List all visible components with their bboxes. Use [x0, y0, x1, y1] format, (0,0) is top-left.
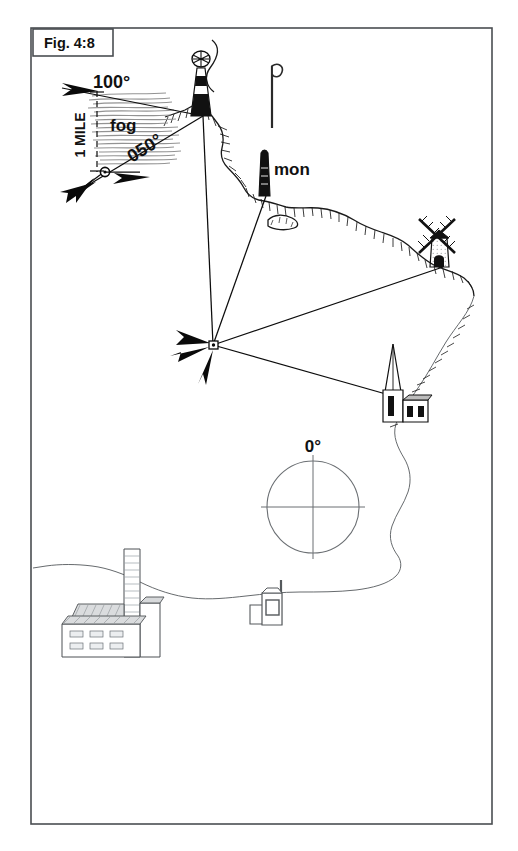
figure-label-text: Fig. 4:8 [44, 35, 95, 51]
windmill-icon [418, 216, 455, 267]
bearing-100-label: 100° [93, 72, 130, 92]
coastal-building-icon [250, 580, 282, 625]
flagpole-icon [272, 64, 282, 128]
figure-container: Fig. 4:8 [0, 0, 518, 851]
position-fix-marker [209, 341, 218, 349]
compass-north-label: 0° [305, 437, 321, 456]
position-fix-arrows [170, 330, 213, 385]
fog-label: fog [110, 116, 136, 135]
fog-bearing-construction: fog 100° 050° [60, 72, 203, 203]
church-icon [383, 344, 432, 422]
bearing-050-arrowhead-2 [113, 173, 150, 184]
coastline-east [33, 296, 474, 599]
coastline-north [164, 104, 474, 296]
monument-icon [259, 150, 270, 196]
compass-rose: 0° [261, 437, 365, 559]
bearing-line-lighthouse [203, 116, 213, 345]
bearing-line-church [213, 345, 400, 398]
bearing-line-windmill [213, 267, 443, 345]
scale-bar-label: 1 MILE [72, 112, 88, 157]
monument-label: mon [274, 160, 310, 179]
figure-label-box: Fig. 4:8 [33, 29, 113, 56]
bearing-line-monument [213, 196, 266, 345]
navigation-chart-diagram: Fig. 4:8 [0, 0, 518, 851]
islet-rock [268, 215, 298, 230]
bearing-lines [203, 116, 443, 398]
lighthouse-icon [191, 40, 217, 116]
factory-icon [62, 549, 164, 657]
